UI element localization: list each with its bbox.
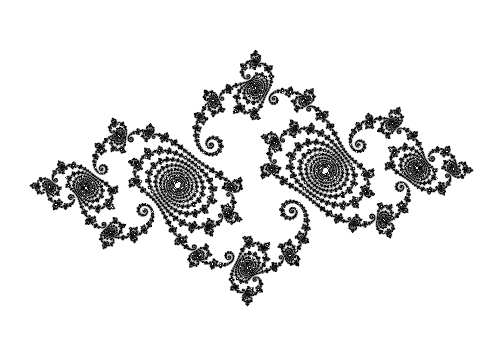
julia-set-image [0, 0, 502, 355]
